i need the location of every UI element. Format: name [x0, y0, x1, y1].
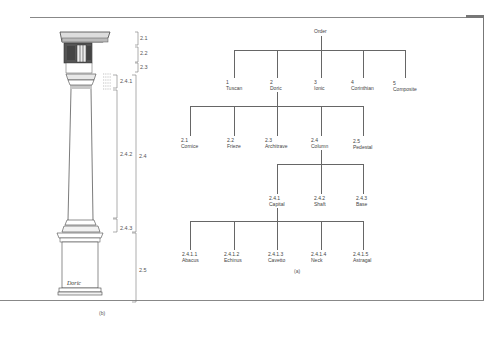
- connector: [190, 106, 191, 136]
- node-abacus: 2.4.1.1Abacus: [182, 251, 199, 263]
- dim-2-3: 2.3: [140, 64, 148, 70]
- caption-a: (a): [294, 268, 300, 274]
- connector: [234, 50, 235, 78]
- connector: [277, 208, 278, 221]
- connector: [234, 50, 406, 51]
- connector: [363, 221, 364, 250]
- node-pedestal: 2.5Pedestal: [353, 138, 372, 150]
- connector: [234, 221, 235, 250]
- dim-2-1: 2.1: [140, 35, 148, 41]
- connector: [321, 36, 322, 50]
- connector: [277, 164, 278, 194]
- node-astragal: 2.4.1.5Astragal: [353, 251, 371, 263]
- node-tuscan: 1Tuscan: [226, 79, 242, 91]
- dim-2-4-3: 2.4.3: [120, 225, 132, 231]
- connector: [405, 50, 406, 78]
- connector: [321, 164, 322, 194]
- dim-2-5: 2.5: [139, 267, 147, 273]
- node-composite: 5Composite: [393, 80, 417, 92]
- connector: [277, 221, 278, 250]
- node-order: Order: [314, 28, 327, 34]
- node-ionic: 3Ionic: [314, 79, 325, 91]
- connector: [321, 150, 322, 164]
- node-base: 2.4.3Base: [356, 195, 367, 207]
- node-echinus: 2.4.1.2Echinus: [224, 251, 242, 263]
- connector: [277, 92, 278, 106]
- signature: Doric: [67, 280, 81, 286]
- connector: [321, 221, 322, 250]
- node-doric: 2Doric: [270, 79, 282, 91]
- dim-2-4-1: 2.4.1: [120, 78, 132, 84]
- node-shaft: 2.4.2Shaft: [314, 195, 326, 207]
- connector: [277, 106, 278, 136]
- doric-column-drawing: [0, 0, 499, 340]
- node-neck: 2.4.1.4Neck: [311, 251, 326, 263]
- dim-2-2: 2.2: [140, 50, 148, 56]
- node-column: 2.4Column: [311, 137, 328, 149]
- node-label: Order: [314, 28, 327, 34]
- connector: [234, 106, 235, 136]
- node-cornice: 2.1Cornice: [181, 137, 198, 149]
- connector: [321, 50, 322, 78]
- node-architrave: 2.3Architrave: [265, 137, 288, 149]
- node-corinthian: 4Corinthian: [351, 79, 374, 91]
- node-cavetto: 2.4.1.3Cavetto: [268, 251, 285, 263]
- node-capital: 2.4.1Capital: [269, 195, 285, 207]
- connector: [363, 106, 364, 136]
- connector: [363, 50, 364, 78]
- dim-2-4: 2.4: [139, 153, 147, 159]
- connector: [190, 221, 191, 250]
- node-frieze: 2.2Frieze: [227, 137, 241, 149]
- connector: [277, 50, 278, 78]
- connector: [363, 164, 364, 194]
- dim-2-4-2: 2.4.2: [120, 151, 132, 157]
- connector: [321, 106, 322, 136]
- caption-b: (b): [99, 310, 105, 316]
